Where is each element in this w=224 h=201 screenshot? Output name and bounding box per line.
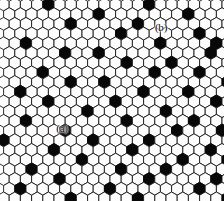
hexagonal-lattice-figure: (a)(b): [0, 0, 224, 201]
lattice-canvas: [0, 0, 224, 201]
hexagon-layer: [0, 0, 224, 201]
label-b: (b): [155, 22, 167, 33]
label-a: (a): [56, 123, 68, 134]
